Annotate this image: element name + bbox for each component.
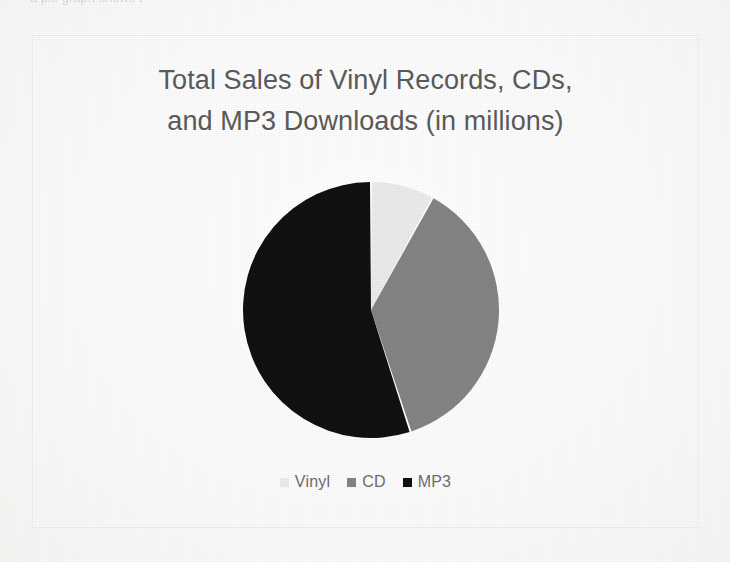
legend-item-cd[interactable]: CD bbox=[347, 473, 386, 491]
chart-legend: Vinyl CD MP3 bbox=[33, 473, 698, 491]
legend-swatch-mp3 bbox=[403, 478, 412, 487]
chart-frame: Total Sales of Vinyl Records, CDs, and M… bbox=[32, 35, 699, 528]
legend-swatch-cd bbox=[347, 478, 356, 487]
pie-slices bbox=[243, 182, 499, 438]
pie-chart-svg bbox=[241, 179, 501, 441]
legend-item-vinyl[interactable]: Vinyl bbox=[280, 473, 330, 491]
pie-chart-area bbox=[33, 36, 698, 527]
clipped-top-text: a pie graph shows t bbox=[30, 0, 290, 5]
legend-label-mp3: MP3 bbox=[418, 473, 452, 491]
legend-swatch-vinyl bbox=[280, 478, 289, 487]
legend-label-vinyl: Vinyl bbox=[295, 473, 330, 491]
legend-label-cd: CD bbox=[362, 473, 386, 491]
legend-item-mp3[interactable]: MP3 bbox=[403, 473, 452, 491]
